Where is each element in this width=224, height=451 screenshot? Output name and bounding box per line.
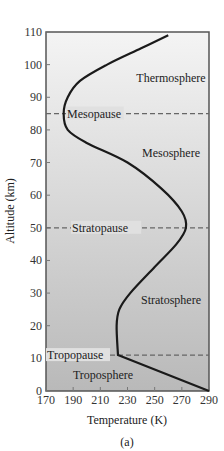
boundary-label: Mesopause (67, 107, 121, 121)
atmosphere-temperature-chart: 0102030405060708090100110 17019021023025… (0, 0, 224, 451)
y-tick-label: 80 (30, 123, 42, 137)
y-tick-label: 50 (30, 221, 42, 235)
y-tick-label: 100 (24, 58, 42, 72)
figure-caption: (a) (120, 435, 133, 449)
x-tick-label: 270 (173, 393, 191, 407)
x-tick-label: 250 (146, 393, 164, 407)
region-label: Thermosphere (136, 71, 205, 85)
x-tick-label: 230 (119, 393, 137, 407)
x-tick-label: 190 (64, 393, 82, 407)
y-tick-label: 10 (30, 351, 42, 365)
boundary-label: Stratopause (72, 221, 128, 235)
boundary-label: Tropopause (47, 348, 103, 362)
x-tick-label: 210 (91, 393, 109, 407)
x-tick-label: 170 (37, 393, 55, 407)
region-label: Stratosphere (141, 293, 201, 307)
y-tick-label: 40 (30, 253, 42, 267)
y-tick-label: 90 (30, 90, 42, 104)
y-tick-label: 110 (24, 25, 42, 39)
y-tick-label: 60 (30, 188, 42, 202)
y-tick-label: 30 (30, 286, 42, 300)
region-label: Troposphere (73, 368, 133, 382)
y-tick-label: 70 (30, 156, 42, 170)
region-label: Mesosphere (142, 146, 200, 160)
y-axis-label: Altitude (km) (3, 178, 17, 244)
x-tick-label: 290 (200, 393, 218, 407)
y-tick-label: 20 (30, 319, 42, 333)
x-axis-label: Temperature (K) (87, 413, 167, 427)
plot-area (46, 32, 209, 391)
